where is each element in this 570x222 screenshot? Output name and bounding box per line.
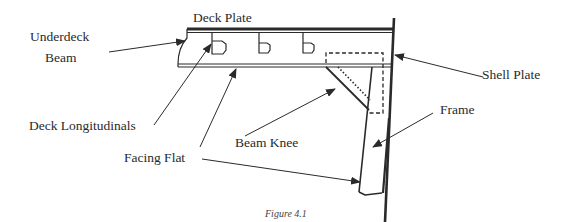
leader-shell-plate <box>395 55 483 77</box>
deck-longitudinal <box>303 33 314 53</box>
figure-caption: Figure 4.1 <box>264 208 307 219</box>
label-beam-knee: Beam Knee <box>235 135 298 150</box>
facing-flat <box>178 64 393 67</box>
leader-deck-longitudinals <box>154 44 211 125</box>
figure-canvas: Underdeck Beam Deck Plate Shell Plate Fr… <box>0 0 570 222</box>
label-deck-longitudinals: Deck Longitudinals <box>29 118 136 133</box>
beam-knee <box>326 67 370 110</box>
leader-beam-knee <box>245 89 335 136</box>
underdeck-beam-end <box>178 29 187 64</box>
frame <box>359 67 389 195</box>
leader-facing-flat <box>200 69 236 147</box>
leader-underdeck-beam <box>109 41 185 52</box>
label-facing-flat: Facing Flat <box>124 150 185 165</box>
label-shell-plate: Shell Plate <box>482 67 540 82</box>
leader-facing-flat-frame <box>202 159 360 182</box>
deck-plate <box>187 29 393 33</box>
label-deck-plate: Deck Plate <box>193 10 252 25</box>
label-frame: Frame <box>440 102 475 117</box>
label-underdeck-beam-line2: Beam <box>45 50 77 65</box>
deck-longitudinal <box>259 33 270 53</box>
deck-longitudinal <box>212 33 226 54</box>
knee-outline-dashed <box>326 53 383 113</box>
structural-diagram: Underdeck Beam Deck Plate Shell Plate Fr… <box>0 0 570 222</box>
label-underdeck-beam-line1: Underdeck <box>30 29 89 44</box>
leader-frame <box>373 113 433 147</box>
